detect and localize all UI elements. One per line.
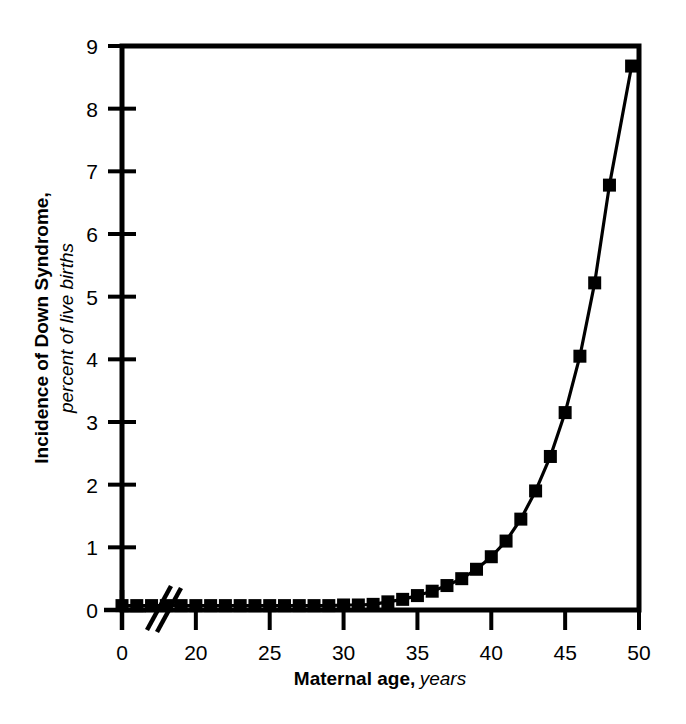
data-point-marker xyxy=(411,589,424,602)
data-point-marker xyxy=(337,598,350,611)
data-point-marker xyxy=(455,572,468,585)
x-axis-origin-label: 0 xyxy=(116,641,128,664)
x-axis-tick-label: 25 xyxy=(258,641,281,664)
x-axis-tick-label: 30 xyxy=(332,641,355,664)
y-axis-tick-label: 2 xyxy=(86,474,98,497)
data-point-marker xyxy=(625,60,638,73)
data-point-marker xyxy=(367,598,380,611)
data-point-marker xyxy=(234,599,247,612)
figure-container: 0123456789 20253035404550 0 Incidence of… xyxy=(0,0,686,724)
data-point-marker xyxy=(248,599,261,612)
data-point-marker xyxy=(559,406,572,419)
data-point-marker xyxy=(396,593,409,606)
data-point-marker xyxy=(529,484,542,497)
x-axis-tick-label: 35 xyxy=(406,641,429,664)
x-axis-tick-label: 20 xyxy=(184,641,207,664)
y-axis-tick-label: 6 xyxy=(86,223,98,246)
data-point-marker xyxy=(219,599,232,612)
data-point-marker xyxy=(263,599,276,612)
y-axis-title-bold: Incidence of Down Syndrome, xyxy=(31,192,52,463)
y-axis-tick-label: 3 xyxy=(86,411,98,434)
data-point-marker xyxy=(278,599,291,612)
data-point-marker xyxy=(426,585,439,598)
data-point-marker xyxy=(145,599,158,612)
data-point-marker xyxy=(204,599,217,612)
data-point-marker xyxy=(322,599,335,612)
down-syndrome-incidence-chart: 0123456789 20253035404550 0 Incidence of… xyxy=(0,0,686,724)
x-axis-tick-label: 45 xyxy=(553,641,576,664)
y-axis-tick-label: 7 xyxy=(86,160,98,183)
y-axis-tick-label: 8 xyxy=(86,98,98,121)
data-point-marker xyxy=(381,595,394,608)
data-point-marker xyxy=(588,276,601,289)
y-axis-tick-label: 1 xyxy=(86,536,98,559)
data-point-marker xyxy=(603,179,616,192)
data-point-marker xyxy=(130,599,143,612)
y-axis-tick-label: 0 xyxy=(86,599,98,622)
y-axis-tick-label: 4 xyxy=(86,348,98,371)
data-point-marker xyxy=(189,599,202,612)
data-point-marker xyxy=(175,599,188,612)
x-axis-tick-label: 50 xyxy=(627,641,650,664)
x-axis-title: Maternal age, years xyxy=(294,668,467,689)
x-axis-tick-label: 40 xyxy=(480,641,503,664)
y-axis-tick-label: 9 xyxy=(86,35,98,58)
data-point-marker xyxy=(470,563,483,576)
data-point-marker xyxy=(116,599,129,612)
data-point-marker xyxy=(573,350,586,363)
data-point-marker xyxy=(160,599,173,612)
data-point-marker xyxy=(293,599,306,612)
data-point-marker xyxy=(352,598,365,611)
data-point-marker xyxy=(308,599,321,612)
y-axis-tick-label: 5 xyxy=(86,286,98,309)
x-axis-title-text: Maternal age, years xyxy=(294,668,467,689)
data-point-marker xyxy=(440,579,453,592)
data-point-marker xyxy=(544,450,557,463)
data-point-marker xyxy=(485,550,498,563)
data-point-marker xyxy=(500,535,513,548)
y-axis-title-italic: percent of live births xyxy=(56,242,77,414)
data-point-marker xyxy=(514,513,527,526)
